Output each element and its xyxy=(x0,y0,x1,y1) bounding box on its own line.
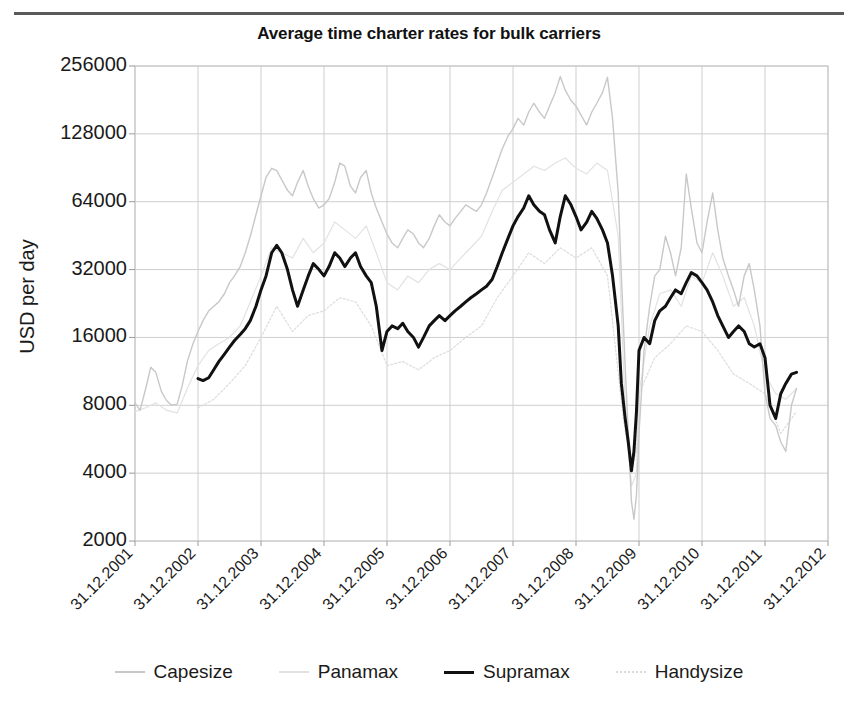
legend-swatch-icon xyxy=(115,671,145,673)
legend-item-handysize[interactable]: Handysize xyxy=(616,661,744,683)
plot-background xyxy=(135,66,828,541)
y-tick-label: 64000 xyxy=(17,189,127,212)
legend-label: Handysize xyxy=(655,661,744,683)
y-tick-label: 4000 xyxy=(17,460,127,483)
y-tick-label: 128000 xyxy=(17,121,127,144)
legend-label: Supramax xyxy=(483,661,570,683)
legend-item-capesize[interactable]: Capesize xyxy=(115,661,233,683)
y-tick-label: 2000 xyxy=(17,528,127,551)
legend-item-panamax[interactable]: Panamax xyxy=(279,661,398,683)
y-tick-label: 8000 xyxy=(17,392,127,415)
plot-area xyxy=(0,0,858,703)
chart-legend: CapesizePanamaxSupramaxHandysize xyxy=(0,655,858,689)
legend-swatch-icon xyxy=(616,671,646,673)
chart-figure: Average time charter rates for bulk carr… xyxy=(0,0,858,703)
legend-swatch-icon xyxy=(444,671,474,674)
legend-item-supramax[interactable]: Supramax xyxy=(444,661,570,683)
y-tick-label: 256000 xyxy=(17,53,127,76)
y-tick-label: 16000 xyxy=(17,324,127,347)
legend-label: Panamax xyxy=(318,661,398,683)
legend-label: Capesize xyxy=(154,661,233,683)
legend-swatch-icon xyxy=(279,671,309,673)
y-tick-label: 32000 xyxy=(17,257,127,280)
